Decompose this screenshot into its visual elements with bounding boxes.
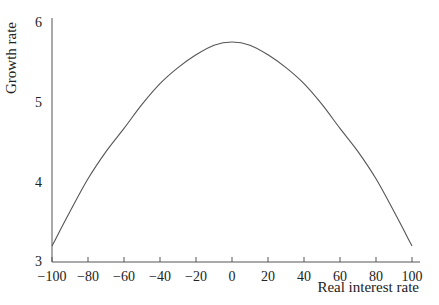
tick-labels: −100−80−60−40−200204060801003456 bbox=[35, 15, 423, 284]
x-tick-label: 20 bbox=[261, 269, 275, 284]
growth-rate-curve bbox=[52, 42, 412, 246]
x-tick-label: −60 bbox=[113, 269, 135, 284]
y-tick-label: 5 bbox=[35, 95, 42, 110]
y-tick-label: 3 bbox=[35, 254, 42, 269]
x-tick-label: −20 bbox=[185, 269, 207, 284]
x-axis-label: Real interest rate bbox=[317, 279, 419, 295]
x-tick-label: 40 bbox=[297, 269, 311, 284]
y-axis-label: Growth rate bbox=[3, 22, 19, 94]
x-tick-label: −80 bbox=[77, 269, 99, 284]
x-tick-label: −40 bbox=[149, 269, 171, 284]
y-tick-label: 4 bbox=[35, 175, 42, 190]
y-tick-label: 6 bbox=[35, 15, 42, 30]
x-tick-label: −100 bbox=[38, 269, 67, 284]
axes bbox=[52, 18, 420, 262]
chart: −100−80−60−40−200204060801003456 Growth … bbox=[0, 0, 439, 305]
x-tick-label: 0 bbox=[229, 269, 236, 284]
